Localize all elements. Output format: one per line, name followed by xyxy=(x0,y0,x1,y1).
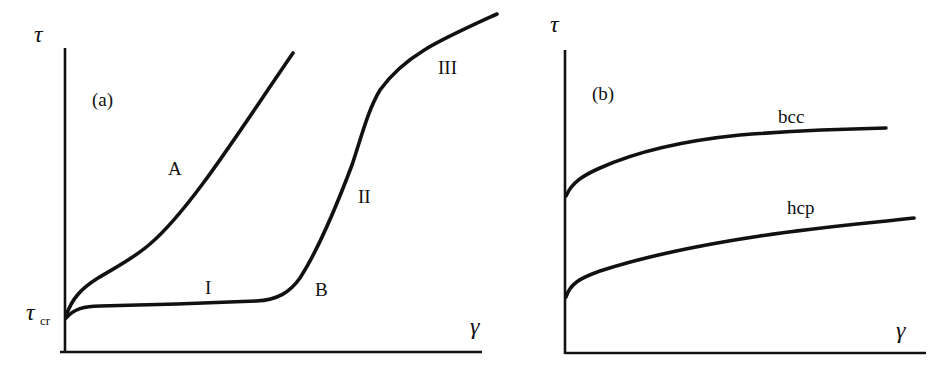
stage-label-i: I xyxy=(205,277,211,298)
panel-label-b: (b) xyxy=(592,83,614,105)
curve-label-b: B xyxy=(315,279,328,300)
panel-b: τ γ (b) bcc hcp xyxy=(550,11,926,354)
curve-label-hcp: hcp xyxy=(787,197,814,218)
panel-label-a: (a) xyxy=(92,89,113,111)
x-axis-label-b: γ xyxy=(896,317,906,343)
curve-bcc xyxy=(566,128,886,196)
svg-text:cr: cr xyxy=(40,313,51,328)
y-axis-label-b: τ xyxy=(550,11,560,37)
svg-text:τ: τ xyxy=(26,299,36,325)
x-axis-label-a: γ xyxy=(470,313,480,339)
stress-strain-figure: τ γ (a) τ cr A I II III B τ γ (b) bcc hc… xyxy=(0,0,950,374)
y-axis-label-a: τ xyxy=(34,21,44,47)
tau-cr-label: τ cr xyxy=(26,299,51,328)
curve-hcp xyxy=(566,218,914,297)
curve-label-a: A xyxy=(168,158,182,179)
curve-label-bcc: bcc xyxy=(778,106,804,127)
curve-b xyxy=(66,14,497,318)
stage-label-iii: III xyxy=(438,57,457,78)
stage-label-ii: II xyxy=(358,186,371,207)
panel-a: τ γ (a) τ cr A I II III B xyxy=(26,14,497,353)
